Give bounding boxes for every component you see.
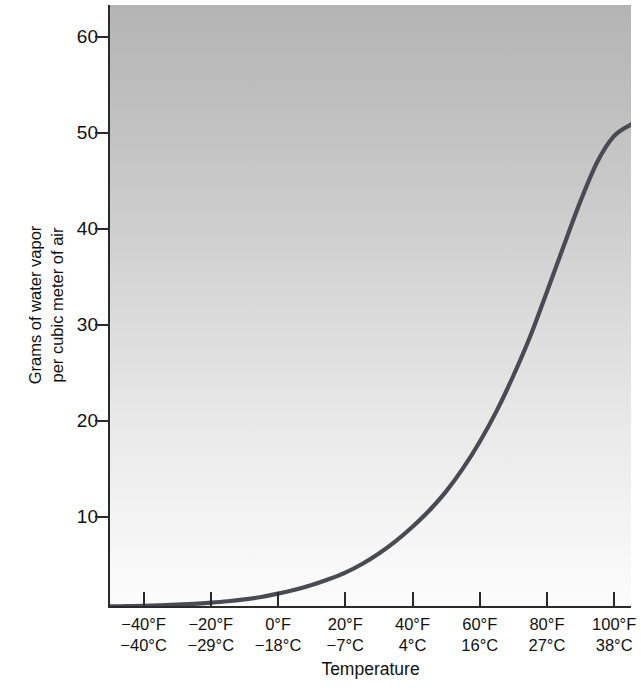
x-axis-line (108, 606, 631, 608)
x-tick-mark-1 (210, 592, 212, 607)
y-tick-label-20: 20 (44, 411, 98, 430)
x-tick-mark-0 (143, 592, 145, 607)
x-tick-mark-2 (277, 592, 279, 607)
y-tick-mark-40 (95, 228, 110, 230)
plot-svg (110, 5, 631, 607)
x-tick-label-celsius-7: 38°C (568, 635, 641, 656)
x-tick-mark-5 (479, 592, 481, 607)
data-series-curve (110, 124, 631, 606)
y-tick-label-30: 30 (44, 315, 98, 334)
y-tick-mark-60 (95, 36, 110, 38)
y-tick-mark-30 (95, 324, 110, 326)
y-tick-label-50: 50 (44, 123, 98, 142)
y-tick-label-10: 10 (44, 507, 98, 526)
x-axis-title: Temperature (110, 658, 631, 680)
y-tick-mark-10 (95, 516, 110, 518)
y-tick-mark-50 (95, 132, 110, 134)
y-tick-mark-20 (95, 420, 110, 422)
y-tick-label-60: 60 (44, 27, 98, 46)
x-tick-mark-4 (412, 592, 414, 607)
y-tick-label-40: 40 (44, 219, 98, 238)
x-tick-label-fahrenheit-7: 100°F (568, 614, 641, 635)
x-tick-mark-7 (613, 592, 615, 607)
x-tick-mark-6 (546, 592, 548, 607)
y-tick-label-group: 60 50 40 30 20 10 (40, 0, 98, 620)
plot-area (110, 5, 631, 607)
x-tick-label-7: 100°F38°C (568, 614, 641, 656)
x-tick-mark-3 (344, 592, 346, 607)
